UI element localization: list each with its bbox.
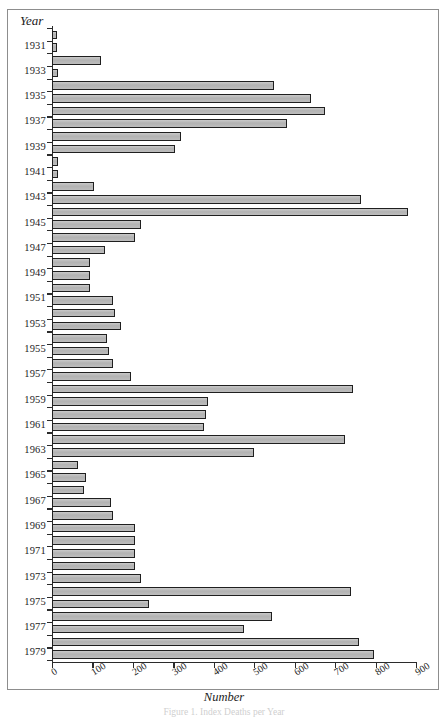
figure-caption: Figure 1. Index Deaths per Year bbox=[0, 707, 448, 717]
bar-1976 bbox=[52, 611, 416, 624]
bar-1943 bbox=[52, 194, 416, 207]
bar-1941 bbox=[52, 169, 416, 182]
y-axis-label-1977: 1977 bbox=[2, 621, 46, 632]
bar-1948 bbox=[52, 257, 416, 270]
bar-rect bbox=[52, 397, 208, 406]
bar-1975 bbox=[52, 598, 416, 611]
y-axis-label-1963: 1963 bbox=[2, 444, 46, 455]
bar-rect bbox=[52, 170, 58, 179]
bar-1961 bbox=[52, 421, 416, 434]
y-axis-label-1935: 1935 bbox=[2, 90, 46, 101]
y-tick bbox=[47, 559, 52, 560]
bar-rect bbox=[52, 56, 101, 65]
y-tick bbox=[47, 230, 52, 231]
y-tick bbox=[47, 256, 52, 257]
bar-1974 bbox=[52, 586, 416, 599]
y-tick bbox=[47, 369, 52, 370]
bar-rect bbox=[52, 473, 86, 482]
y-tick bbox=[47, 357, 52, 358]
y-axis-title: Year bbox=[20, 13, 43, 29]
y-tick bbox=[47, 268, 52, 269]
y-axis-label-1953: 1953 bbox=[2, 318, 46, 329]
bar-rect bbox=[52, 498, 111, 507]
y-tick bbox=[47, 91, 52, 92]
bar-1950 bbox=[52, 282, 416, 295]
bar-1970 bbox=[52, 535, 416, 548]
bar-1955 bbox=[52, 346, 416, 359]
bar-rect bbox=[52, 145, 175, 154]
y-tick bbox=[47, 597, 52, 598]
y-axis-label-1979: 1979 bbox=[2, 646, 46, 657]
bar-rect bbox=[52, 423, 204, 432]
bar-rect bbox=[52, 435, 345, 444]
bar-1952 bbox=[52, 308, 416, 321]
bar-1957 bbox=[52, 371, 416, 384]
bar-rect bbox=[52, 208, 408, 217]
y-axis-label-1947: 1947 bbox=[2, 242, 46, 253]
bar-1960 bbox=[52, 409, 416, 422]
bar-1966 bbox=[52, 485, 416, 498]
y-axis-label-1957: 1957 bbox=[2, 368, 46, 379]
y-tick bbox=[47, 205, 52, 206]
bar-rect bbox=[52, 309, 115, 318]
y-axis-label-1975: 1975 bbox=[2, 596, 46, 607]
y-tick bbox=[47, 635, 52, 636]
y-tick bbox=[47, 647, 52, 648]
y-axis-label-1961: 1961 bbox=[2, 419, 46, 430]
bar-1942 bbox=[52, 181, 416, 194]
bar-rect bbox=[52, 233, 135, 242]
y-tick bbox=[47, 293, 52, 294]
bar-rect bbox=[52, 638, 359, 647]
y-tick bbox=[47, 546, 52, 547]
bar-rect bbox=[52, 410, 206, 419]
bar-rect bbox=[52, 625, 244, 634]
x-axis-line bbox=[52, 662, 417, 663]
y-tick bbox=[47, 116, 52, 117]
bar-rect bbox=[52, 562, 135, 571]
y-axis-label-1931: 1931 bbox=[2, 40, 46, 51]
bar-rect bbox=[52, 182, 94, 191]
y-tick bbox=[47, 470, 52, 471]
y-tick bbox=[47, 382, 52, 383]
bar-1933 bbox=[52, 67, 416, 80]
y-tick bbox=[47, 584, 52, 585]
y-tick bbox=[47, 218, 52, 219]
figure-page: Year 19311933193519371939194119431945194… bbox=[0, 0, 448, 717]
bar-1937 bbox=[52, 118, 416, 131]
bar-1954 bbox=[52, 333, 416, 346]
y-tick bbox=[47, 521, 52, 522]
bar-1971 bbox=[52, 548, 416, 561]
bar-rect bbox=[52, 549, 135, 558]
y-tick bbox=[47, 508, 52, 509]
bar-1936 bbox=[52, 105, 416, 118]
bar-1978 bbox=[52, 636, 416, 649]
bar-1965 bbox=[52, 472, 416, 485]
y-axis-label-1959: 1959 bbox=[2, 394, 46, 405]
bar-rect bbox=[52, 574, 141, 583]
y-axis-label-1941: 1941 bbox=[2, 166, 46, 177]
bar-1972 bbox=[52, 560, 416, 573]
y-axis-label-1951: 1951 bbox=[2, 292, 46, 303]
y-tick bbox=[47, 572, 52, 573]
bar-1946 bbox=[52, 232, 416, 245]
y-tick bbox=[47, 104, 52, 105]
y-tick bbox=[47, 609, 52, 610]
bar-1963 bbox=[52, 447, 416, 460]
bar-1969 bbox=[52, 522, 416, 535]
bar-1930 bbox=[52, 30, 416, 43]
bar-rect bbox=[52, 107, 325, 116]
bar-rect bbox=[52, 322, 121, 331]
y-tick bbox=[47, 154, 52, 155]
bar-rect bbox=[52, 524, 135, 533]
bar-1956 bbox=[52, 358, 416, 371]
y-tick bbox=[47, 331, 52, 332]
y-axis-label-1937: 1937 bbox=[2, 115, 46, 126]
y-axis-label-1933: 1933 bbox=[2, 65, 46, 76]
bar-rect bbox=[52, 385, 353, 394]
y-tick bbox=[47, 496, 52, 497]
y-tick bbox=[47, 420, 52, 421]
bar-1973 bbox=[52, 573, 416, 586]
bar-1967 bbox=[52, 497, 416, 510]
y-tick bbox=[47, 445, 52, 446]
y-axis-label-1955: 1955 bbox=[2, 343, 46, 354]
